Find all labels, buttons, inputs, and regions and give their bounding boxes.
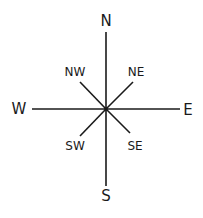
label-east: E <box>183 103 192 118</box>
label-northeast: NE <box>128 66 145 78</box>
center-point <box>104 107 108 111</box>
southeast-line <box>106 109 130 133</box>
southwest-line <box>80 109 106 136</box>
label-southeast: SE <box>127 140 142 152</box>
compass-rose: N S W E NW NE SW SE <box>0 0 203 218</box>
label-northwest: NW <box>65 66 86 78</box>
compass-lines <box>0 0 203 218</box>
label-west: W <box>12 102 27 117</box>
label-south: S <box>101 189 111 204</box>
label-north: N <box>100 14 111 29</box>
label-southwest: SW <box>65 140 84 152</box>
northeast-line <box>106 82 133 109</box>
northwest-line <box>80 82 106 109</box>
